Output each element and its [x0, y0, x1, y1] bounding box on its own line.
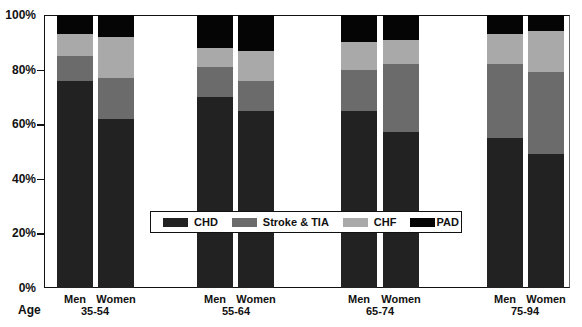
- x-label-age-group: 75-94: [495, 305, 555, 317]
- stacked-bar: [238, 15, 274, 288]
- stacked-bar-chart: 0%20%40%60%80%100% MenWomen35-54MenWomen…: [0, 0, 582, 327]
- bar-segment-pad: [341, 15, 377, 42]
- stacked-bar: [341, 15, 377, 288]
- bar-segment-stroke-tia: [341, 70, 377, 111]
- stacked-bar: [383, 15, 419, 288]
- legend-swatch-chd: [163, 218, 188, 227]
- stacked-bar: [487, 15, 523, 288]
- y-tick-label: 40%: [12, 173, 36, 185]
- legend-label-stroke-tia: Stroke & TIA: [263, 216, 329, 228]
- bar-segment-chd: [98, 119, 134, 288]
- legend-item-pad: PAD: [410, 216, 458, 228]
- bar-segment-stroke-tia: [238, 81, 274, 111]
- y-tick-mark: [37, 233, 45, 235]
- legend-swatch-chf: [343, 218, 368, 227]
- legend-item-chd: CHD: [163, 216, 218, 228]
- x-label-sex: Women: [91, 293, 141, 305]
- bar-segment-chf: [98, 37, 134, 78]
- bar-segment-stroke-tia: [487, 64, 523, 138]
- bar-segment-pad: [57, 15, 93, 34]
- legend-item-stroke-tia: Stroke & TIA: [232, 216, 329, 228]
- bar-segment-chd: [57, 81, 93, 288]
- bar-segment-pad: [487, 15, 523, 34]
- x-axis-title: Age: [18, 303, 41, 317]
- stacked-bar: [197, 15, 233, 288]
- bar-segment-chd: [487, 138, 523, 288]
- bar-segment-pad: [98, 15, 134, 37]
- bar-segment-chf: [197, 48, 233, 67]
- bar-segment-chf: [238, 51, 274, 81]
- bar-segment-stroke-tia: [98, 78, 134, 119]
- bar-segment-stroke-tia: [197, 67, 233, 97]
- bar-segment-pad: [238, 15, 274, 50]
- x-label-sex: Women: [521, 293, 571, 305]
- legend-label-pad: PAD: [436, 216, 458, 228]
- legend-swatch-stroke-tia: [232, 218, 257, 227]
- bar-segment-pad: [197, 15, 233, 48]
- bar-segment-chf: [341, 42, 377, 69]
- legend: CHD Stroke & TIA CHF PAD: [150, 211, 462, 233]
- bar-segment-chf: [528, 31, 564, 72]
- x-label-sex: Women: [376, 293, 426, 305]
- y-tick-label: 80%: [12, 64, 36, 76]
- bar-segment-pad: [383, 15, 419, 40]
- bar-segment-chf: [487, 34, 523, 64]
- y-tick-label: 20%: [12, 227, 36, 239]
- bar-segment-chf: [383, 40, 419, 65]
- bar-segment-chf: [57, 34, 93, 56]
- bar-segment-stroke-tia: [57, 56, 93, 81]
- bar-segment-stroke-tia: [528, 72, 564, 154]
- y-tick-mark: [37, 70, 45, 72]
- y-tick-label: 0%: [19, 282, 36, 294]
- stacked-bar: [528, 15, 564, 288]
- legend-label-chd: CHD: [194, 216, 218, 228]
- legend-item-chf: CHF: [343, 216, 397, 228]
- bar-segment-chd: [238, 111, 274, 288]
- bar-segment-chd: [341, 111, 377, 288]
- bar-segment-chd: [528, 154, 564, 288]
- bar-segment-stroke-tia: [383, 64, 419, 132]
- x-label-age-group: 55-64: [206, 305, 266, 317]
- stacked-bar: [98, 15, 134, 288]
- x-label-age-group: 65-74: [350, 305, 410, 317]
- bar-segment-chd: [197, 97, 233, 288]
- y-tick-label: 60%: [12, 118, 36, 130]
- y-tick-label: 100%: [5, 9, 36, 21]
- legend-label-chf: CHF: [374, 216, 397, 228]
- x-label-sex: Women: [231, 293, 281, 305]
- bar-segment-pad: [528, 15, 564, 31]
- legend-swatch-pad: [410, 218, 435, 227]
- stacked-bar: [57, 15, 93, 288]
- y-tick-mark: [37, 124, 45, 126]
- y-tick-mark: [37, 179, 45, 181]
- x-label-age-group: 35-54: [65, 305, 125, 317]
